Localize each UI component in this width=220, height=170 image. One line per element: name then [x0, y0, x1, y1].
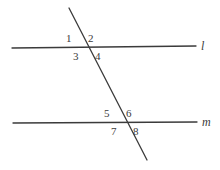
angle-label-2: 2 — [88, 33, 94, 44]
line-l — [12, 46, 196, 48]
geometry-figure: 1 2 3 4 5 6 7 8 l m — [0, 0, 220, 170]
transversal-line — [69, 8, 147, 160]
line-label-m: m — [202, 116, 211, 128]
angle-label-7: 7 — [111, 126, 117, 137]
angle-label-4: 4 — [95, 51, 101, 62]
angle-label-8: 8 — [133, 126, 139, 137]
angle-label-6: 6 — [126, 108, 132, 119]
line-m — [13, 122, 197, 123]
angle-label-5: 5 — [104, 108, 110, 119]
angle-label-3: 3 — [73, 51, 79, 62]
line-label-l: l — [201, 40, 204, 52]
figure-canvas — [0, 0, 220, 170]
angle-label-1: 1 — [66, 33, 72, 44]
